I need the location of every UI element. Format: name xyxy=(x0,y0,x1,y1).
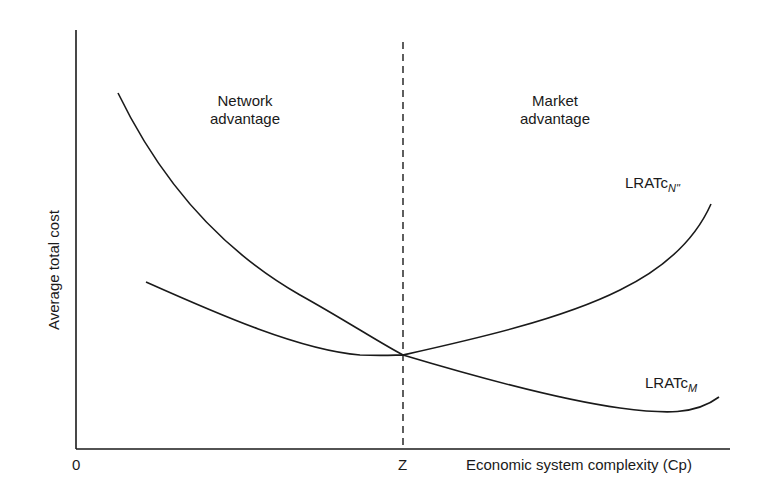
series-market-main: LRATc xyxy=(645,374,688,391)
region-label-network: Network advantage xyxy=(205,92,285,128)
chart-canvas xyxy=(0,0,775,503)
region-market-line1: Market xyxy=(515,92,595,110)
region-network-line1: Network xyxy=(205,92,285,110)
series-market-sub: M xyxy=(688,382,697,394)
x-axis-label: Economic system complexity (Cp) xyxy=(466,456,692,474)
y-axis-label: Average total cost xyxy=(45,210,62,330)
series-network-sub: N" xyxy=(668,182,680,194)
z-tick-label: Z xyxy=(398,456,407,474)
region-market-line2: advantage xyxy=(515,110,595,128)
series-network-main: LRATc xyxy=(625,174,668,191)
origin-label: 0 xyxy=(72,456,80,474)
region-network-line2: advantage xyxy=(205,110,285,128)
market-cost-curve xyxy=(146,282,719,412)
region-label-market: Market advantage xyxy=(515,92,595,128)
series-label-market: LRATcM xyxy=(645,374,697,393)
network-cost-curve xyxy=(118,93,711,355)
series-label-network: LRATcN" xyxy=(625,174,680,193)
